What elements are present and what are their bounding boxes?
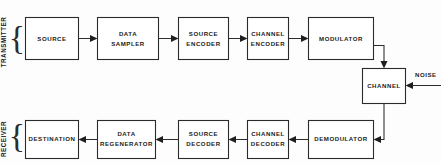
arrow-head-icon (374, 136, 382, 143)
block-modulator-label: MODULATOR (319, 35, 363, 42)
block-data-regenerator-label-line1: DATA (117, 130, 135, 137)
block-data-sampler[interactable]: DATA SAMPLER (98, 18, 159, 60)
block-channel-encoder-rect[interactable] (248, 18, 289, 60)
connector-path (379, 104, 384, 140)
block-source-decoder-label-line1: SOURCE (189, 130, 218, 137)
block-channel[interactable]: CHANNEL (363, 69, 406, 104)
connector-noise-to-channel: NOISE (406, 71, 441, 89)
arrow-head-icon (90, 35, 98, 42)
block-channel-decoder-label-line1: CHANNEL (251, 130, 285, 137)
connector-channel-to-demodulator (374, 104, 385, 144)
connector-channel-decoder-to-source-decoder (229, 136, 248, 143)
connector-path (374, 46, 385, 64)
connector-source-encoder-to-channel-encoder (229, 35, 248, 42)
diagram-canvas: TRANSMITTER { RECEIVER { SOURCE DATA SAM… (0, 0, 441, 163)
block-channel-encoder-label-line1: CHANNEL (251, 30, 285, 37)
block-destination[interactable]: DESTINATION (26, 121, 79, 159)
transmitter-label-text: TRANSMITTER (0, 17, 7, 68)
receiver-section-label: RECEIVER { (0, 117, 25, 157)
arrow-head-icon (381, 61, 388, 69)
block-demodulator-label: DEMODULATOR (314, 135, 368, 142)
block-source-label: SOURCE (37, 35, 66, 42)
block-data-regenerator[interactable]: DATA REGENERATOR (98, 121, 156, 159)
arrow-head-icon (240, 35, 248, 42)
block-source-encoder-label-line1: SOURCE (189, 30, 218, 37)
block-data-sampler-rect[interactable] (98, 18, 159, 60)
block-data-sampler-label-line1: DATA (119, 30, 137, 37)
connector-channel-encoder-to-modulator (289, 35, 309, 42)
block-channel-encoder[interactable]: CHANNEL ENCODER (248, 18, 289, 60)
block-destination-label: DESTINATION (29, 135, 76, 142)
arrow-head-icon (406, 82, 414, 89)
connector-source-to-data-sampler (79, 35, 98, 42)
block-modulator[interactable]: MODULATOR (309, 18, 374, 60)
block-source-decoder-label-line2: DECODER (186, 140, 220, 147)
receiver-label-text: RECEIVER (0, 121, 7, 157)
arrow-head-icon (79, 136, 87, 143)
arrow-head-icon (229, 136, 237, 143)
receiver-brace-icon: { (9, 117, 25, 154)
block-channel-decoder[interactable]: CHANNEL DECODER (248, 121, 289, 159)
arrow-head-icon (171, 35, 179, 42)
block-source[interactable]: SOURCE (26, 18, 79, 60)
noise-label: NOISE (415, 71, 437, 78)
transmitter-brace-icon: { (9, 19, 25, 56)
transmitter-section-label: TRANSMITTER { (0, 17, 25, 68)
arrow-head-icon (289, 136, 297, 143)
block-diagram-svg: TRANSMITTER { RECEIVER { SOURCE DATA SAM… (0, 0, 441, 163)
block-source-decoder[interactable]: SOURCE DECODER (179, 121, 229, 159)
connector-demodulator-to-channel-decoder (289, 136, 309, 143)
connector-data-regenerator-to-destination (79, 136, 98, 143)
block-demodulator[interactable]: DEMODULATOR (309, 121, 374, 159)
block-data-regenerator-label-line2: REGENERATOR (100, 140, 153, 147)
block-source-encoder[interactable]: SOURCE ENCODER (179, 18, 229, 60)
block-channel-label: CHANNEL (367, 82, 401, 89)
arrow-head-icon (301, 35, 309, 42)
block-data-sampler-label-line2: SAMPLER (111, 40, 145, 47)
connector-modulator-to-channel (374, 46, 388, 69)
block-channel-decoder-label-line2: DECODER (251, 140, 285, 147)
connector-data-sampler-to-source-encoder (159, 35, 179, 42)
connector-source-decoder-to-data-regenerator (156, 136, 179, 143)
arrow-head-icon (156, 136, 164, 143)
block-source-encoder-rect[interactable] (179, 18, 229, 60)
block-source-encoder-label-line2: ENCODER (186, 40, 220, 47)
block-channel-encoder-label-line2: ENCODER (251, 40, 285, 47)
